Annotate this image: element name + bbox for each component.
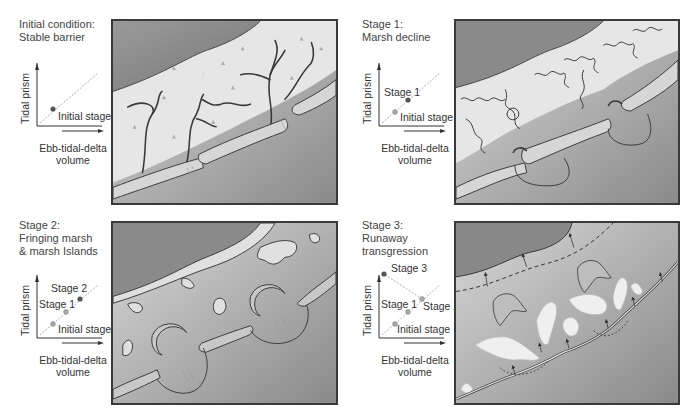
map-panel-stage-1	[454, 19, 680, 205]
x-axis-label: Ebb-tidal-delta volume	[28, 354, 118, 378]
point-stage-1	[405, 97, 410, 102]
caption-initial-condition: Initial condition: Stable barrier	[19, 18, 95, 44]
mini-chart-initial: Tidal prism Initial stage Ebb-tidal-delt…	[22, 60, 112, 170]
label-initial-stage: Initial stage	[58, 323, 111, 335]
map-panel-stage-3	[454, 221, 680, 405]
point-stage-1	[64, 310, 69, 315]
label-initial-stage: Initial stage	[397, 323, 450, 335]
y-axis-label: Tidal prism	[361, 73, 373, 124]
point-initial-stage	[51, 322, 56, 327]
map-panel-initial	[111, 19, 338, 205]
mini-chart-stage-1: Tidal prism Stage 1 Initial stage Ebb-ti…	[364, 60, 454, 170]
label-stage-2: Stage 2	[51, 282, 87, 294]
x-axis-label: Ebb-tidal-delta volume	[370, 142, 460, 166]
label-initial-stage: Initial stage	[58, 110, 111, 122]
caption-stage-1: Stage 1: Marsh decline	[362, 18, 430, 44]
map-stage-2-fringing-marsh	[113, 223, 336, 403]
y-axis-label: Tidal prism	[361, 285, 373, 336]
point-initial-stage	[50, 106, 55, 111]
label-initial-stage: Initial stage	[400, 111, 453, 123]
point-stage-3	[381, 271, 386, 276]
y-axis-label: Tidal prism	[19, 285, 31, 336]
map-stage-3-runaway-transgression	[456, 223, 678, 403]
mini-chart-stage-3: Tidal prism Stage 3 Stage 1 Stage 2 Init…	[364, 272, 454, 382]
point-initial-stage	[393, 110, 398, 115]
y-axis-label: Tidal prism	[19, 73, 31, 124]
label-stage-3: Stage 3	[391, 262, 427, 274]
point-stage-1	[406, 310, 411, 315]
point-stage-2	[77, 296, 82, 301]
caption-stage-3: Stage 3: Runaway transgression	[362, 219, 428, 258]
map-initial-stable-barrier	[113, 21, 336, 203]
map-stage-1-marsh-decline	[456, 21, 678, 203]
x-axis-label: Ebb-tidal-delta volume	[28, 142, 118, 166]
label-stage-1: Stage 1	[381, 298, 417, 310]
caption-stage-2: Stage 2: Fringing marsh & marsh Islands	[19, 219, 98, 258]
x-axis-label: Ebb-tidal-delta volume	[370, 354, 460, 378]
map-panel-stage-2	[111, 221, 338, 405]
label-stage-1: Stage 1	[384, 86, 420, 98]
mini-chart-stage-2: Tidal prism Stage 2 Stage 1 Initial stag…	[22, 272, 112, 382]
label-stage-1: Stage 1	[39, 298, 75, 310]
